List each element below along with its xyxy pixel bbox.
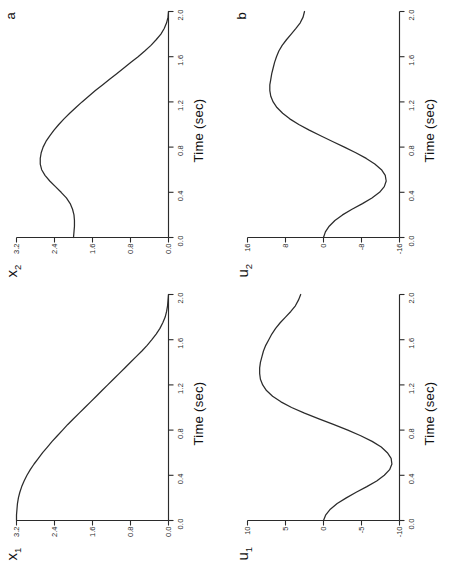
ytick-label: 0 <box>318 526 327 562</box>
xtick-label: 0.8 <box>406 428 415 439</box>
xtick-label: 0.0 <box>175 235 184 246</box>
y-axis-title: x1 <box>2 547 22 560</box>
xtick-label: 1.2 <box>175 382 184 393</box>
ytick-label: 2.4 <box>49 526 58 562</box>
plot-area-x2: 0.00.40.81.21.62.03.22.41.60.80.0Time (s… <box>0 0 231 283</box>
x-axis-title: Time (sec) <box>421 98 436 162</box>
panel-u2: 0.00.40.81.21.62.01680-8-16Time (sec)u2b <box>231 0 462 283</box>
y-axis-title: u1 <box>233 546 253 560</box>
ytick-label: -8 <box>356 243 365 279</box>
x-axis-title: Time (sec) <box>421 381 436 445</box>
ytick-label: 0.0 <box>163 526 172 562</box>
ytick-label: -16 <box>394 243 403 279</box>
xtick-label: 0.8 <box>406 145 415 156</box>
xtick-label: 2.0 <box>175 292 184 303</box>
ytick-label: 5 <box>280 526 289 562</box>
ytick-label: -5 <box>356 526 365 562</box>
xtick-label: 1.6 <box>175 337 184 348</box>
ytick-label: 8 <box>280 243 289 279</box>
xtick-label: 0.4 <box>175 190 184 201</box>
plot-area-u2: 0.00.40.81.21.62.01680-8-16Time (sec)u2b <box>231 0 462 283</box>
plot-area-u1: 0.00.40.81.21.62.01050-5-10Time (sec)u1 <box>231 283 462 566</box>
panel-u1-rotated: 0.00.40.81.21.62.01050-5-10Time (sec)u1 <box>231 283 462 566</box>
panel-x1: 0.00.40.81.21.62.03.22.41.60.80.0Time (s… <box>0 283 231 566</box>
ytick-label: -10 <box>394 526 403 562</box>
figure-canvas: 0.00.40.81.21.62.03.22.41.60.80.0Time (s… <box>0 0 462 566</box>
panel-x2-rotated: 0.00.40.81.21.62.03.22.41.60.80.0Time (s… <box>0 0 231 283</box>
panel-letter: a <box>2 12 17 19</box>
xtick-label: 0.4 <box>175 473 184 484</box>
x-axis-title: Time (sec) <box>190 98 205 162</box>
xtick-label: 0.4 <box>406 473 415 484</box>
ytick-label: 2.4 <box>49 243 58 279</box>
ytick-label: 1.6 <box>87 526 96 562</box>
xtick-label: 1.6 <box>175 54 184 65</box>
xtick-label: 0.8 <box>175 145 184 156</box>
xtick-label: 2.0 <box>175 9 184 20</box>
panel-x2: 0.00.40.81.21.62.03.22.41.60.80.0Time (s… <box>0 0 231 283</box>
xtick-label: 2.0 <box>406 9 415 20</box>
xtick-label: 1.6 <box>406 54 415 65</box>
xtick-label: 1.2 <box>406 382 415 393</box>
ytick-label: 0.8 <box>125 526 134 562</box>
ytick-label: 0.0 <box>163 243 172 279</box>
xtick-label: 1.6 <box>406 337 415 348</box>
y-axis-title: x2 <box>2 264 22 277</box>
xtick-label: 1.2 <box>175 99 184 110</box>
y-axis-title: u2 <box>233 263 253 277</box>
panel-u2-rotated: 0.00.40.81.21.62.01680-8-16Time (sec)u2b <box>231 0 462 283</box>
panel-x1-rotated: 0.00.40.81.21.62.03.22.41.60.80.0Time (s… <box>0 283 231 566</box>
xtick-label: 0.0 <box>406 518 415 529</box>
panel-u1: 0.00.40.81.21.62.01050-5-10Time (sec)u1 <box>231 283 462 566</box>
ytick-label: 0.8 <box>125 243 134 279</box>
xtick-label: 1.2 <box>406 99 415 110</box>
xtick-label: 0.0 <box>175 518 184 529</box>
plot-area-x1: 0.00.40.81.21.62.03.22.41.60.80.0Time (s… <box>0 283 231 566</box>
ytick-label: 1.6 <box>87 243 96 279</box>
xtick-label: 0.0 <box>406 235 415 246</box>
panel-letter: b <box>233 12 248 19</box>
xtick-label: 0.8 <box>175 428 184 439</box>
xtick-label: 0.4 <box>406 190 415 201</box>
x-axis-title: Time (sec) <box>190 381 205 445</box>
ytick-label: 0 <box>318 243 327 279</box>
xtick-label: 2.0 <box>406 292 415 303</box>
